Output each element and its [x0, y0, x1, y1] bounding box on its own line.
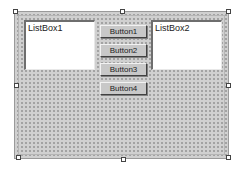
- button-4[interactable]: Button4: [100, 82, 147, 95]
- designer-canvas: ListBox1 ListBox2 Button1 Button2 Button…: [0, 0, 245, 170]
- listbox-1-label: ListBox1: [28, 23, 63, 33]
- resize-handle-middle-right[interactable]: [226, 83, 231, 88]
- resize-handle-top-left[interactable]: [13, 9, 18, 14]
- form-designer-surface[interactable]: ListBox1 ListBox2 Button1 Button2 Button…: [14, 11, 229, 159]
- resize-handle-top-center[interactable]: [120, 9, 125, 14]
- resize-handle-bottom-center[interactable]: [121, 157, 126, 162]
- listbox-2[interactable]: ListBox2: [151, 20, 222, 70]
- button-2[interactable]: Button2: [100, 44, 147, 57]
- resize-handle-top-right[interactable]: [226, 9, 231, 14]
- listbox-2-label: ListBox2: [155, 23, 190, 33]
- resize-handle-bottom-right[interactable]: [226, 155, 231, 160]
- listbox-1[interactable]: ListBox1: [24, 20, 95, 70]
- resize-handle-bottom-left[interactable]: [16, 155, 21, 160]
- resize-handle-middle-left[interactable]: [14, 83, 19, 88]
- button-3[interactable]: Button3: [100, 63, 147, 76]
- button-1[interactable]: Button1: [100, 25, 147, 38]
